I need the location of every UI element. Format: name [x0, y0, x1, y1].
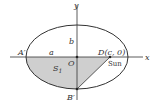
label-sun: Sun [108, 60, 122, 68]
label-d: D(c, 0) [97, 48, 125, 57]
label-a: a [49, 48, 54, 57]
ellipse-diagram: y x b a A′ O D(c, 0) Sun S1 B′ [0, 0, 156, 105]
label-o: O [68, 59, 75, 68]
label-b-prime: B′ [66, 93, 75, 102]
label-b: b [69, 37, 74, 46]
label-y-axis: y [73, 1, 79, 10]
label-x-axis: x [145, 53, 150, 62]
point-o [76, 56, 79, 59]
point-b-prime [76, 88, 79, 91]
label-a-prime: A′ [17, 48, 26, 57]
